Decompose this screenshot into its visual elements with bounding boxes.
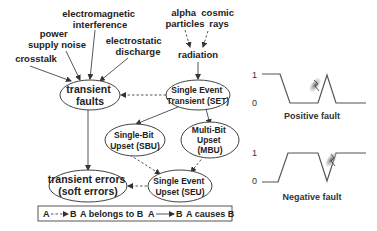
edge-emi-faults (90, 30, 95, 79)
legend-a-causes: A (148, 209, 155, 219)
positive-fault-waveform: 1 0 Positive fault (252, 70, 366, 121)
svg-text:Single Event Transient (: Single Event Transient (SET) (167, 85, 230, 106)
y-high-label: 1 (252, 148, 257, 158)
node-seu: Single Event Upset (SEU) (148, 170, 212, 202)
negative-fault-caption: Negative fault (282, 192, 341, 202)
fault-diagram: crosstalk power supply noise electromagn… (0, 0, 377, 231)
legend-b-belongs: B (70, 209, 77, 219)
source-crosstalk: crosstalk (15, 53, 57, 64)
y-low-label: 0 (252, 98, 257, 108)
legend-belongs-text: A belongs to B (80, 209, 144, 219)
edge-cosmic-radiation (203, 31, 208, 47)
y-high-label: 1 (252, 70, 257, 80)
source-alpha-particles: alpha particles (165, 7, 204, 29)
legend-b-causes: B (176, 209, 183, 219)
edge-crosstalk-faults (30, 66, 71, 81)
source-electromagnetic-interference: electromagnetic interference (62, 8, 138, 30)
node-transient-errors: transient errors (soft errors) (48, 170, 129, 202)
node-set: Single Event Transient (SET) (166, 80, 230, 110)
node-transient-faults: transient faults (60, 80, 120, 110)
edge-mbu-seu (191, 156, 204, 172)
legend-a-belongs: A (43, 209, 50, 219)
legend-causes-text: A causes B (186, 209, 235, 219)
edge-alpha-radiation (185, 30, 190, 47)
source-power-supply-noise: power supply noise (28, 28, 86, 50)
source-radiation: radiation (178, 49, 218, 60)
lightning-icon (307, 76, 323, 94)
source-electrostatic-discharge: electrostatic discharge (106, 35, 165, 57)
lightning-icon (323, 151, 339, 169)
positive-fault-caption: Positive fault (284, 111, 340, 121)
edge-set-sbu (136, 107, 178, 124)
edge-power-faults (66, 51, 80, 80)
source-cosmic-rays: cosmic rays (201, 7, 236, 29)
edge-esd-faults (100, 58, 128, 81)
negative-fault-waveform: 1 0 Negative fault (252, 148, 366, 202)
node-sbu: Single-Bit Upset (SBU) (105, 124, 165, 156)
svg-text:Single Event Upset (SEU): Single Event Upset (SEU) (153, 176, 206, 197)
svg-text:transient errors (soft e: transient errors (soft errors) (48, 173, 129, 197)
y-low-label: 0 (252, 176, 257, 186)
svg-text:Single-Bit Upset (SBU): Single-Bit Upset (SBU) (110, 130, 160, 151)
legend: A B A belongs to B A B A causes B (38, 206, 235, 221)
edge-sbu-seu (130, 155, 160, 174)
node-mbu: Multi-Bit Upset (MBU) (181, 122, 239, 158)
